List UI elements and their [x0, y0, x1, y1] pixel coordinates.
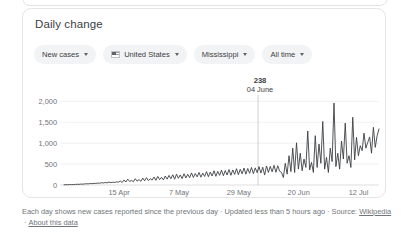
- filter-chip-region[interactable]: Mississippi: [194, 45, 256, 64]
- footer-source-label: Source:: [332, 207, 357, 216]
- us-flag-icon: [111, 51, 120, 58]
- filter-chip-range[interactable]: All time: [262, 45, 312, 64]
- filter-chip-metric-label: New cases: [42, 51, 79, 59]
- chevron-down-icon: [175, 53, 179, 56]
- footer-description: Each day shows new cases reported since …: [22, 207, 218, 216]
- filter-chip-region-label: Mississippi: [202, 51, 239, 59]
- filter-chip-range-label: All time: [270, 51, 295, 59]
- filter-chip-metric[interactable]: New cases: [34, 45, 96, 64]
- x-axis-tick-label: 29 May: [219, 188, 259, 197]
- x-axis-tick-label: 15 Apr: [99, 188, 139, 197]
- x-axis-tick-label: 20 Jun: [279, 188, 319, 197]
- y-axis-tick-label: 1,500: [27, 118, 57, 127]
- y-axis-tick-label: 1,000: [27, 139, 57, 148]
- chevron-down-icon: [300, 53, 304, 56]
- filter-chip-row: New cases United States Mississippi All …: [34, 45, 312, 64]
- annotation-date: 04 June: [239, 85, 281, 94]
- card-title: Daily change: [35, 18, 103, 30]
- covid-daily-change-widget: Daily change New cases United States Mis…: [0, 0, 410, 242]
- x-axis-tick-label: 7 May: [159, 188, 199, 197]
- filter-chip-country[interactable]: United States: [103, 45, 187, 64]
- chevron-down-icon: [243, 53, 247, 56]
- source-link[interactable]: Wikipedia: [359, 207, 391, 216]
- filter-chip-country-label: United States: [124, 51, 170, 59]
- y-axis-tick-label: 2,000: [27, 97, 57, 106]
- chart-footer: Each day shows new cases reported since …: [22, 206, 394, 228]
- footer-updated: Updated less than 5 hours ago: [224, 207, 325, 216]
- daily-change-card: Daily change New cases United States Mis…: [22, 8, 386, 198]
- annotation-value: 238: [239, 76, 281, 85]
- x-axis-tick-label: 12 Jul: [339, 188, 379, 197]
- about-this-data-link[interactable]: About this data: [28, 218, 77, 227]
- point-annotation: 238 04 June: [237, 75, 283, 95]
- chevron-down-icon: [84, 53, 88, 56]
- y-axis-tick-label: 500: [27, 160, 57, 169]
- adjacent-card-sliver: [22, 0, 388, 6]
- daily-change-line-chart: [23, 9, 386, 198]
- y-axis-tick-label: 0: [27, 181, 57, 190]
